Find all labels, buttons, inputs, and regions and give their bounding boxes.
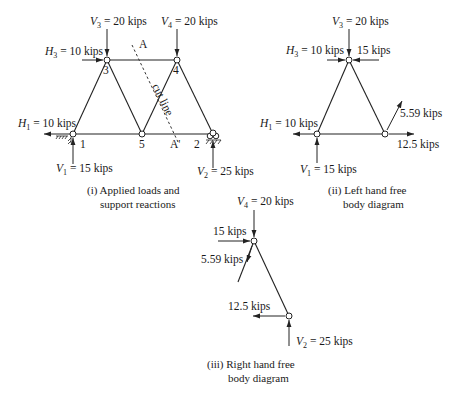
- node-bottom-left: [314, 131, 320, 137]
- node-label-2: 2: [194, 138, 200, 150]
- node-4: [251, 238, 257, 244]
- force-label-5-59: 5.59 kips: [400, 107, 443, 120]
- node-3: [104, 57, 110, 63]
- pin-support-hatch: [56, 136, 71, 144]
- node-4: [174, 57, 180, 63]
- member-4-2: [177, 60, 213, 134]
- load-label-V3: V3 = 20 kips: [332, 15, 389, 30]
- node-label-5: 5: [139, 138, 145, 150]
- figure-right-free-body: V4 = 20 kips 15 kips 5.59 kips 12.5 kips…: [201, 195, 353, 384]
- member-1-3: [73, 60, 107, 134]
- reaction-label-V1: V1 = 15 kips: [56, 162, 113, 177]
- cut-label-A-prime: A': [170, 138, 180, 150]
- node-bottom-right: [382, 131, 388, 137]
- node-2: [210, 130, 216, 136]
- truss-diagram: A A' cut line 3 4 1 5 2 V3 = 20 kips V4 …: [0, 0, 451, 395]
- node-2: [286, 313, 292, 319]
- reaction-label-V1: V1 = 15 kips: [300, 163, 357, 178]
- node-label-4: 4: [173, 64, 179, 76]
- load-label-H3: H3 = 10 kips: [44, 45, 104, 60]
- member-3-5: [107, 60, 142, 134]
- caption-iii-line1: (iii) Right hand free: [207, 358, 295, 371]
- right-member: [349, 60, 385, 134]
- force-label-15: 15 kips: [357, 44, 391, 57]
- caption-i-line1: (i) Applied loads and: [87, 184, 180, 197]
- caption-ii-line2: body diagram: [343, 198, 404, 210]
- cut-label-A: A: [139, 38, 148, 50]
- caption-i-line2: support reactions: [100, 198, 175, 210]
- reaction-label-V2: V2 = 25 kips: [197, 165, 254, 180]
- load-label-V3: V3 = 20 kips: [90, 15, 147, 30]
- load-label-V4: V4 = 20 kips: [237, 195, 294, 210]
- node-top: [346, 57, 352, 63]
- force-label-12-5: 12.5 kips: [228, 300, 271, 313]
- force-label-5-59: 5.59 kips: [201, 253, 244, 266]
- reaction-label-V2: V2 = 25 kips: [296, 335, 353, 350]
- node-1: [70, 131, 76, 137]
- reaction-label-H1: H1 = 10 kips: [17, 117, 77, 132]
- figure-applied-loads: A A' cut line 3 4 1 5 2 V3 = 20 kips V4 …: [17, 15, 254, 210]
- caption-ii-line1: (ii) Left hand free: [328, 184, 407, 197]
- force-label-15: 15 kips: [213, 225, 247, 238]
- cut-line-text: cut line: [150, 82, 176, 118]
- reaction-label-H1: H1 = 10 kips: [259, 117, 319, 132]
- node-5: [139, 131, 145, 137]
- caption-iii-line2: body diagram: [228, 372, 289, 384]
- node-label-1: 1: [80, 138, 86, 150]
- force-label-12-5: 12.5 kips: [397, 138, 440, 151]
- left-member: [317, 60, 349, 134]
- figure-left-free-body: V3 = 20 kips H3 = 10 kips 15 kips H1 = 1…: [259, 15, 443, 210]
- force-arrow-5-59: [247, 246, 252, 262]
- node-label-3: 3: [103, 64, 109, 76]
- load-label-V4: V4 = 20 kips: [161, 15, 218, 30]
- load-label-H3: H3 = 10 kips: [285, 44, 345, 59]
